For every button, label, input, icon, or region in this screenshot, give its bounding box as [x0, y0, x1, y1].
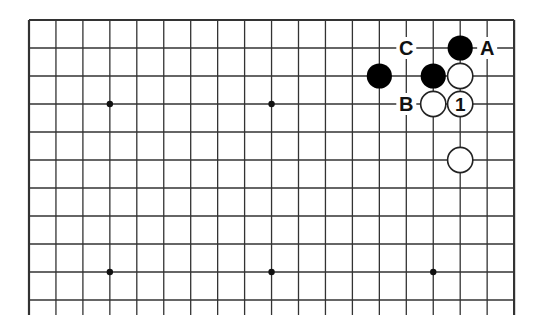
white-stone: 1 — [448, 91, 473, 116]
white-stone — [448, 63, 473, 88]
star-point-icon — [107, 101, 113, 107]
black-stone — [421, 63, 446, 88]
black-stone — [367, 63, 392, 88]
star-point-icon — [268, 269, 274, 275]
star-point-icon — [430, 269, 436, 275]
point-label-a: A — [480, 37, 494, 59]
white-stone — [421, 91, 446, 116]
point-label-b: B — [399, 93, 413, 115]
star-point-icon — [268, 101, 274, 107]
move-number: 1 — [455, 94, 466, 115]
white-stone — [448, 147, 473, 172]
star-point-icon — [107, 269, 113, 275]
point-label-c: C — [399, 37, 413, 59]
go-board: 1 ABC — [0, 0, 545, 333]
black-stone — [448, 35, 473, 60]
